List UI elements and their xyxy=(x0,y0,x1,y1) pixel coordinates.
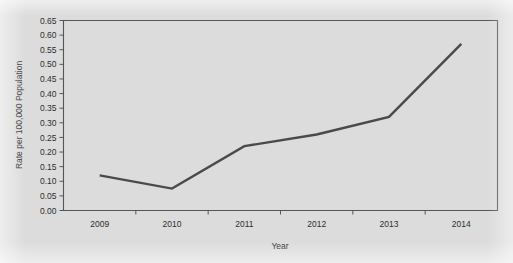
y-tick-label: 0.35 xyxy=(40,103,57,113)
y-tick-label: 0.55 xyxy=(40,45,57,55)
y-tick-label: 0.00 xyxy=(40,206,57,216)
y-tick-label: 0.45 xyxy=(40,74,57,84)
y-tick-label: 0.05 xyxy=(40,191,57,201)
y-tick-label: 0.50 xyxy=(40,59,57,69)
x-tick-label: 2013 xyxy=(380,219,399,229)
x-tick-label: 2009 xyxy=(90,219,109,229)
x-tick-label: 2010 xyxy=(163,219,182,229)
x-tick-label: 2014 xyxy=(452,219,471,229)
figure-background xyxy=(0,0,513,263)
y-tick-label: 0.60 xyxy=(40,30,57,40)
y-tick-label: 0.40 xyxy=(40,89,57,99)
y-tick-label: 0.20 xyxy=(40,147,57,157)
y-tick-label: 0.25 xyxy=(40,133,57,143)
y-tick-label: 0.65 xyxy=(40,16,57,26)
chart-figure: 0.000.050.100.150.200.250.300.350.400.45… xyxy=(0,0,513,263)
y-tick-label: 0.30 xyxy=(40,118,57,128)
y-tick-label: 0.15 xyxy=(40,162,57,172)
x-axis-title: Year xyxy=(271,241,288,251)
y-tick-label: 0.10 xyxy=(40,176,57,186)
x-tick-label: 2012 xyxy=(307,219,326,229)
x-tick-label: 2011 xyxy=(235,219,254,229)
y-axis-title: Rate per 100,000 Population xyxy=(14,61,24,169)
line-chart: 0.000.050.100.150.200.250.300.350.400.45… xyxy=(0,0,513,263)
